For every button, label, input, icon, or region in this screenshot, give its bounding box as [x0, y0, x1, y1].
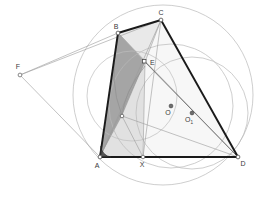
label-X: X: [140, 161, 145, 168]
point-G[interactable]: [120, 114, 124, 118]
label-B: B: [114, 23, 119, 30]
segment-FB: [20, 33, 118, 75]
label-O: O: [165, 109, 171, 116]
point-F[interactable]: [18, 73, 22, 77]
point-B[interactable]: [116, 31, 120, 35]
point-C[interactable]: [159, 18, 163, 22]
label-D: D: [240, 160, 245, 167]
label-E: E: [150, 59, 155, 66]
diagram-stage: A B C D E F X O O1: [0, 0, 275, 201]
point-A[interactable]: [98, 155, 102, 159]
label-F: F: [16, 63, 20, 70]
point-O[interactable]: [169, 104, 173, 108]
point-E[interactable]: [142, 59, 146, 63]
label-C: C: [158, 9, 163, 16]
label-O1-subscript: 1: [190, 120, 193, 125]
label-A: A: [95, 162, 100, 169]
geometry-canvas: A B C D E F X O O1: [0, 0, 275, 201]
point-O1[interactable]: [190, 111, 194, 115]
region-ECD-pale: [143, 20, 238, 157]
point-D[interactable]: [236, 155, 240, 159]
shaded-regions: [100, 20, 238, 157]
point-X[interactable]: [141, 155, 145, 159]
